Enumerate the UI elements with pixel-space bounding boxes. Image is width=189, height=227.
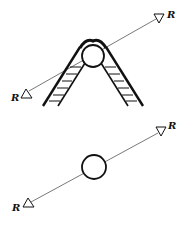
label-r-upper-right-bottom: R [167, 120, 176, 131]
ladder-right-leg [101, 47, 143, 106]
top-diagram: R R [10, 9, 175, 106]
circle-bottom [82, 155, 106, 179]
bottom-diagram: R R [11, 120, 176, 213]
ladder-left-leg [43, 47, 85, 106]
triangle-marker-upper-right-bottom [156, 127, 166, 136]
circle-top [82, 45, 104, 67]
label-r-upper-right-top: R [166, 9, 175, 20]
label-r-lower-left-top: R [10, 92, 19, 103]
triangle-marker-upper-right-top [154, 14, 164, 23]
label-r-lower-left-bottom: R [11, 202, 20, 213]
triangle-marker-lower-left-bottom [23, 198, 34, 207]
diagram-canvas: R R R R [0, 0, 189, 227]
